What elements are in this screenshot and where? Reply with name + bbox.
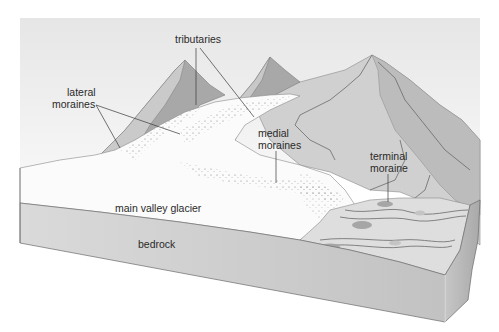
label-medial-moraines-2: moraines [258, 139, 301, 151]
label-lateral-moraines-1: lateral [67, 86, 96, 98]
label-terminal-moraine-1: terminal [370, 150, 407, 162]
label-terminal-moraine-2: moraine [370, 162, 408, 174]
label-main-valley-glacier: main valley glacier [115, 202, 202, 214]
label-bedrock: bedrock [138, 238, 176, 250]
glacier-block-diagram: tributaries lateral moraines medial mora… [0, 0, 499, 332]
label-tributaries: tributaries [175, 33, 221, 45]
label-medial-moraines-1: medial [258, 127, 289, 139]
label-lateral-moraines-2: moraines [52, 98, 95, 110]
